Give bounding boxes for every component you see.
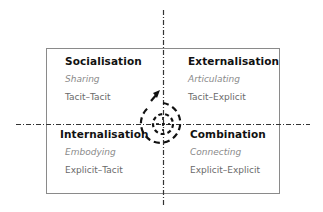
spiral-icon (141, 94, 180, 143)
axes-and-spiral (0, 0, 323, 212)
